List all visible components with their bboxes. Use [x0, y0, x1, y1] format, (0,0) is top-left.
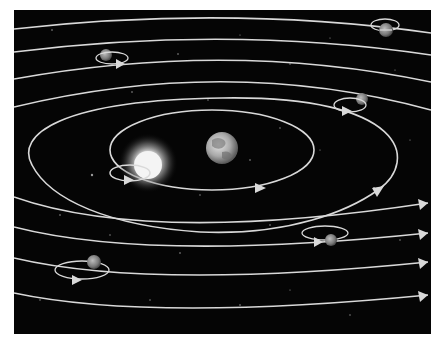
planet-lower-right — [302, 226, 348, 247]
geocentric-diagram — [14, 10, 431, 334]
earth — [206, 132, 238, 164]
outer-orbit-arrows — [418, 199, 428, 302]
epicycle-arrow-icon — [342, 106, 352, 116]
sun — [110, 133, 178, 193]
epicycle-arrow-icon — [116, 59, 125, 69]
epicycle-arrow-icon — [72, 275, 82, 285]
starfield — [39, 29, 410, 315]
second-orbit — [29, 98, 398, 233]
geocentric-diagram-panel — [14, 10, 431, 334]
planet-right — [334, 93, 368, 116]
epicycle-arrow-icon — [314, 237, 323, 247]
second-orbit-path — [29, 98, 398, 232]
